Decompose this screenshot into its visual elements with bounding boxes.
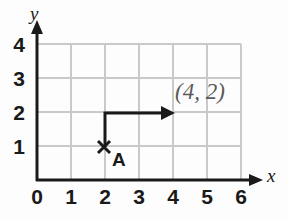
translation-path-arrow [105, 106, 175, 147]
x-tick-label-3: 3 [127, 186, 151, 207]
x-tick-label-1: 1 [59, 186, 83, 207]
x-axis-name: x [267, 166, 275, 185]
x-tick-label-2: 2 [93, 186, 117, 207]
coordinate-annotation: (4, 2) [175, 80, 225, 103]
y-tick-label-1: 1 [8, 136, 30, 157]
y-axis-name: y [30, 4, 38, 23]
x-tick-label-0: 0 [25, 186, 49, 207]
x-tick-label-6: 6 [229, 186, 253, 207]
y-tick-label-4: 4 [8, 34, 30, 55]
point-a-label: A [112, 150, 126, 169]
x-tick-label-5: 5 [195, 186, 219, 207]
x-tick-label-4: 4 [161, 186, 185, 207]
coordinate-grid-figure: 0 1 2 3 4 5 6 1 2 3 4 x y A (4, 2) [0, 0, 287, 221]
y-tick-label-2: 2 [8, 102, 30, 123]
y-tick-label-3: 3 [8, 68, 30, 89]
